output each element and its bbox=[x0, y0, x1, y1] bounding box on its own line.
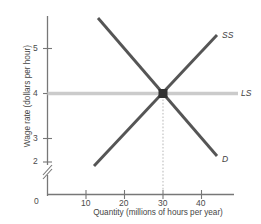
x-axis-title: Quantity (millions of hours per year) bbox=[58, 209, 258, 217]
y-tick-label-2: 2 bbox=[33, 157, 38, 166]
equilibrium-marker bbox=[159, 89, 168, 98]
economics-labor-market-chart: 5 4 3 2 0 10 20 30 40 SS LS D Wage rate … bbox=[0, 0, 261, 224]
ls-curve-label: LS bbox=[241, 89, 251, 98]
x-tick-label-10: 10 bbox=[81, 199, 90, 208]
x-tick-label-40: 40 bbox=[196, 199, 205, 208]
x-tick-label-20: 20 bbox=[119, 199, 128, 208]
x-tick-label-30: 30 bbox=[158, 199, 167, 208]
y-tick-label-4: 4 bbox=[33, 89, 38, 98]
ss-curve-label: SS bbox=[222, 31, 233, 40]
y-tick-label-3: 3 bbox=[33, 134, 38, 143]
demand-curve-label: D bbox=[222, 155, 228, 164]
y-tick-label-5: 5 bbox=[33, 44, 38, 53]
ss-curve-line bbox=[94, 35, 217, 166]
demand-curve-line bbox=[98, 18, 217, 156]
y-axis-title: Wage rate (dollars per hour) bbox=[24, 21, 32, 171]
origin-label: 0 bbox=[34, 197, 39, 206]
